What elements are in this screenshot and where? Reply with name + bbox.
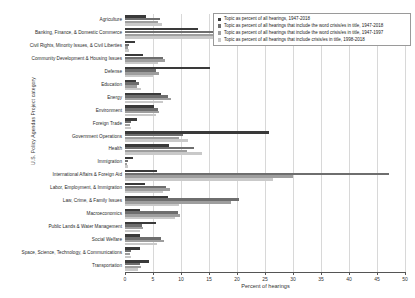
y-axis-category-label: Defense <box>105 70 122 75</box>
legend-swatch <box>218 38 221 41</box>
chart-category-row: Education <box>125 79 405 92</box>
chart-bar <box>125 114 156 116</box>
chart-bar <box>125 88 141 90</box>
chart-bar <box>125 127 131 129</box>
chart-category-row: Environment <box>125 104 405 117</box>
chart-category-row: Health <box>125 143 405 156</box>
x-axis-tick <box>349 272 350 275</box>
chart-bar <box>125 75 153 77</box>
chart-category-row: Defense <box>125 66 405 79</box>
chart-bar <box>125 62 158 64</box>
chart-category-row: Macroeconomics <box>125 208 405 221</box>
x-axis-tick <box>237 272 238 275</box>
x-axis-tick <box>321 272 322 275</box>
y-axis-category-label: Labor, Employment, & Immigration <box>50 186 122 191</box>
bar-chart-figure: U.S. Policy Agendas Project category Agr… <box>0 0 415 298</box>
x-axis-tick <box>405 272 406 275</box>
y-axis-category-label: Public Lands & Water Management <box>48 224 122 229</box>
x-axis-tick <box>153 272 154 275</box>
chart-bar <box>125 243 157 245</box>
legend-swatch <box>218 24 221 27</box>
y-axis-category-label: Banking, Finance, & Domestic Commerce <box>35 31 122 36</box>
x-axis-tick-label: 5 <box>152 276 155 282</box>
chart-category-row: Government Operations <box>125 130 405 143</box>
y-axis-category-label: Education <box>101 83 122 88</box>
chart-category-row: Foreign Trade <box>125 117 405 130</box>
chart-legend: Topic as percent of all hearings, 1947-2… <box>213 13 411 46</box>
y-axis-category-label: Government Operations <box>72 134 122 139</box>
y-axis-category-label: Environment <box>96 108 122 113</box>
legend-item: Topic as percent of all hearings that in… <box>218 38 407 43</box>
legend-label: Topic as percent of all hearings that in… <box>224 38 365 43</box>
gridline <box>405 14 406 272</box>
chart-category-row: International Affairs & Foreign Aid <box>125 169 405 182</box>
x-axis-tick-label: 50 <box>402 276 408 282</box>
legend-item: Topic as percent of all hearings that in… <box>218 31 407 36</box>
y-axis-category-label: Foreign Trade <box>93 121 122 126</box>
chart-category-row: Energy <box>125 91 405 104</box>
legend-item: Topic as percent of all hearings, 1947-2… <box>218 17 407 22</box>
y-axis-category-label: Macroeconomics <box>87 212 122 217</box>
chart-bar <box>125 268 138 270</box>
legend-swatch <box>218 31 221 34</box>
x-axis-tick-label: 10 <box>178 276 184 282</box>
y-axis-category-label: Immigration <box>98 160 123 165</box>
chart-category-row: Immigration <box>125 156 405 169</box>
x-axis-tick-label: 0 <box>124 276 127 282</box>
legend-label: Topic as percent of all hearings, 1947-2… <box>224 17 310 22</box>
x-axis-tick <box>125 272 126 275</box>
chart-bar <box>125 101 163 103</box>
x-axis-tick-label: 25 <box>262 276 268 282</box>
legend-item: Topic as percent of all hearings that in… <box>218 24 407 29</box>
chart-category-row: Space, Science, Technology, & Communicat… <box>125 246 405 259</box>
x-axis-line: 05101520253035404550 <box>125 272 406 273</box>
y-axis-category-label: Agriculture <box>100 18 122 23</box>
legend-label: Topic as percent of all hearings that in… <box>224 24 383 29</box>
y-axis-category-label: Law, Crime, & Family Issues <box>63 199 122 204</box>
x-axis-tick <box>181 272 182 275</box>
x-axis-tick <box>209 272 210 275</box>
chart-category-row: Public Lands & Water Management <box>125 220 405 233</box>
chart-bar <box>125 165 128 167</box>
x-axis-tick <box>377 272 378 275</box>
chart-bar <box>125 230 140 232</box>
chart-bar <box>125 139 188 141</box>
x-axis-tick-label: 15 <box>206 276 212 282</box>
x-axis-tick <box>293 272 294 275</box>
y-axis-category-label: Civil Rights, Minority Issues, & Civil L… <box>30 44 122 49</box>
legend-swatch <box>218 18 221 21</box>
y-axis-category-label: Community Development & Housing Issues <box>32 57 122 62</box>
y-axis-category-label: Social Welfare <box>92 237 122 242</box>
y-axis-category-label: Health <box>108 147 122 152</box>
y-axis-title: U.S. Policy Agendas Project category <box>30 36 36 206</box>
y-axis-category-label: Transportation <box>92 263 122 268</box>
x-axis-tick-label: 40 <box>346 276 352 282</box>
x-axis-tick-label: 45 <box>374 276 380 282</box>
plot-area: AgricultureBanking, Finance, & Domestic … <box>125 14 405 272</box>
legend-label: Topic as percent of all hearings that in… <box>224 31 383 36</box>
x-axis-title: Percent of hearings <box>125 283 406 289</box>
x-axis-tick-label: 35 <box>318 276 324 282</box>
chart-category-row: Community Development & Housing Issues <box>125 53 405 66</box>
chart-bar <box>125 178 273 180</box>
chart-bar <box>125 191 163 193</box>
chart-bar <box>125 204 179 206</box>
x-axis-tick-label: 20 <box>234 276 240 282</box>
x-axis-tick-label: 30 <box>290 276 296 282</box>
chart-bar <box>125 49 129 51</box>
chart-bar <box>125 23 162 25</box>
chart-category-row: Social Welfare <box>125 233 405 246</box>
chart-bar <box>125 152 202 154</box>
chart-category-row: Law, Crime, & Family Issues <box>125 195 405 208</box>
x-axis-tick <box>265 272 266 275</box>
chart-bar <box>125 256 131 258</box>
y-axis-category-label: International Affairs & Foreign Aid <box>53 173 123 178</box>
y-axis-category-label: Space, Science, Technology, & Communicat… <box>22 250 122 255</box>
chart-category-row: Transportation <box>125 259 405 272</box>
y-axis-category-label: Energy <box>107 95 122 100</box>
chart-category-row: Labor, Employment, & Immigration <box>125 182 405 195</box>
chart-bar <box>125 217 175 219</box>
